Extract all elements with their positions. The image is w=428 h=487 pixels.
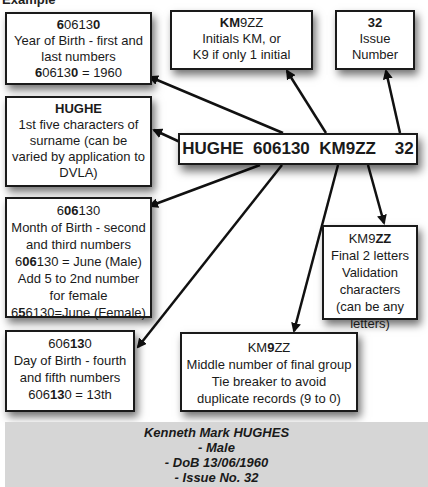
- surname-desc-3: varied by application to: [7, 149, 150, 165]
- surname-box: HUGHE 1st five characters of surname (ca…: [5, 96, 152, 187]
- day-code: 606130: [7, 335, 133, 352]
- validation-box: KM9ZZ Final 2 letters Validation charact…: [322, 225, 418, 320]
- arrow-to-issue: [386, 71, 400, 133]
- initials-desc-2: K9 if only 1 initial: [172, 47, 311, 63]
- month-desc-3: Add 5 to 2nd number: [7, 270, 150, 287]
- tiebreaker-desc-1: Middle number of final group: [182, 356, 356, 373]
- initials-desc-1: Initials KM, or: [172, 31, 311, 47]
- surname-desc-4: DVLA): [7, 165, 150, 181]
- day-desc-2: and fifth numbers: [7, 369, 133, 386]
- tiebreaker-desc-2: Tie breaker to avoid: [182, 373, 356, 390]
- footer-dob: - DoB 13/06/1960: [5, 455, 428, 470]
- issue-desc-2: Number: [337, 47, 413, 63]
- arrow-to-surname: [154, 130, 180, 142]
- arrow-to-month: [150, 165, 260, 206]
- tiebreaker-desc-3: duplicate records (9 to 0): [182, 390, 356, 407]
- year-desc-2: last numbers: [7, 49, 150, 65]
- validation-desc-2: Validation: [324, 264, 416, 281]
- day-desc-1: Day of Birth - fourth: [7, 352, 133, 369]
- summary-footer: Kenneth Mark HUGHES - Male - DoB 13/06/1…: [5, 422, 428, 487]
- footer-gender: - Male: [5, 440, 428, 455]
- initials-code: KM9ZZ: [172, 15, 311, 31]
- month-desc-2: and third numbers: [7, 236, 150, 253]
- validation-code: KM9ZZ: [324, 230, 416, 247]
- month-of-birth-box: 606130 Month of Birth - second and third…: [5, 197, 152, 318]
- surname-code: HUGHE: [7, 101, 150, 117]
- month-desc-4: for female: [7, 287, 150, 304]
- year-example: 606130 = 1960: [7, 65, 150, 81]
- validation-desc-1: Final 2 letters: [324, 247, 416, 264]
- month-desc-1: Month of Birth - second: [7, 219, 150, 236]
- footer-name: Kenneth Mark HUGHES: [5, 425, 428, 440]
- month-example-female: 656130=June (Female): [7, 304, 150, 321]
- day-example: 606130 = 13th: [7, 386, 133, 403]
- surname-desc-1: 1st five characters of: [7, 117, 150, 133]
- tiebreaker-code: KM9ZZ: [182, 339, 356, 356]
- arrow-to-validation: [368, 165, 384, 223]
- initials-box: KM9ZZ Initials KM, or K9 if only 1 initi…: [170, 10, 313, 70]
- month-example-male: 606130 = June (Male): [7, 253, 150, 270]
- issue-desc-1: Issue: [337, 31, 413, 47]
- year-code: 606130: [7, 17, 150, 33]
- arrow-to-day: [138, 165, 282, 347]
- year-of-birth-box: 606130 Year of Birth - first and last nu…: [5, 12, 152, 85]
- validation-desc-3: characters: [324, 281, 416, 298]
- validation-desc-5: letters): [324, 315, 416, 332]
- year-desc-1: Year of Birth - first and: [7, 33, 150, 49]
- tie-breaker-box: KM9ZZ Middle number of final group Tie b…: [180, 332, 358, 412]
- issue-number-box: 32 Issue Number: [335, 10, 415, 70]
- issue-code: 32: [337, 15, 413, 31]
- arrow-to-year: [150, 77, 283, 133]
- arrow-to-initials: [287, 71, 326, 133]
- validation-desc-4: (can be any: [324, 298, 416, 315]
- licence-number-box: HUGHE 606130 KM9ZZ 32: [178, 133, 418, 165]
- surname-desc-2: surname (can be: [7, 133, 150, 149]
- day-of-birth-box: 606130 Day of Birth - fourth and fifth n…: [5, 330, 135, 412]
- footer-issue: - Issue No. 32: [5, 470, 428, 485]
- month-code: 606130: [7, 202, 150, 219]
